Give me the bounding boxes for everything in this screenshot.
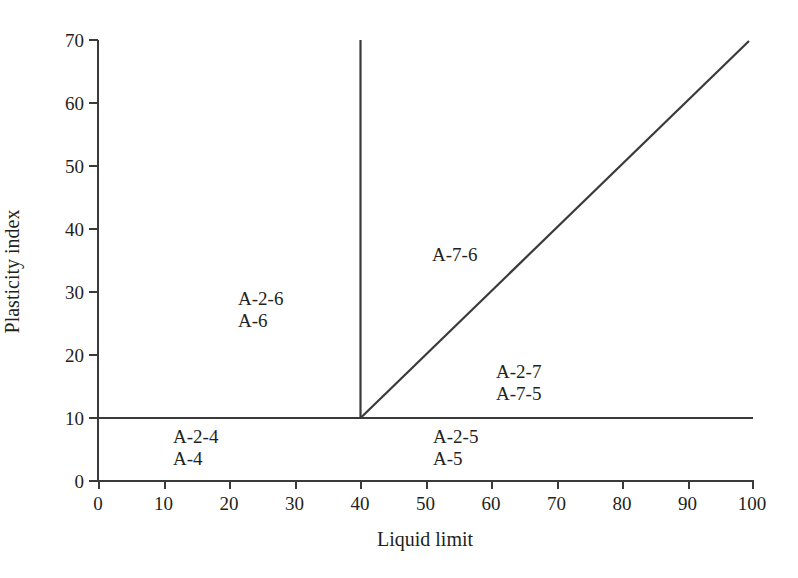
x-tick-label-80: 80 xyxy=(613,494,632,513)
y-tick-label-10: 10 xyxy=(65,409,84,428)
x-tick-label-30: 30 xyxy=(285,494,304,513)
plot-lines xyxy=(0,0,798,578)
y-tick-label-30: 30 xyxy=(65,283,84,302)
x-tick-label-40: 40 xyxy=(351,494,370,513)
x-tick-30 xyxy=(295,480,297,489)
y-tick-label-60: 60 xyxy=(65,94,84,113)
region-label-line-2: A-4 xyxy=(173,448,218,470)
y-axis-title: Plasticity index xyxy=(1,210,24,334)
region-label-a-2-4-a-4: A-2-4 A-4 xyxy=(173,426,218,470)
region-label-line-1: A-2-4 xyxy=(173,426,218,448)
x-tick-90 xyxy=(688,480,690,489)
x-tick-100 xyxy=(752,480,754,489)
region-label-line-1: A-2-7 xyxy=(496,361,541,383)
region-label-line-1: A-7-6 xyxy=(432,244,477,266)
region-label-a-2-5-a-5: A-2-5 A-5 xyxy=(433,426,478,470)
y-tick-20 xyxy=(89,354,98,356)
x-tick-label-50: 50 xyxy=(416,494,435,513)
region-label-line-2: A-7-5 xyxy=(496,383,541,405)
y-tick-10 xyxy=(89,417,98,419)
y-tick-60 xyxy=(89,102,98,104)
y-tick-50 xyxy=(89,165,98,167)
y-tick-label-20: 20 xyxy=(65,346,84,365)
x-tick-label-70: 70 xyxy=(547,494,566,513)
region-label-a-7-6: A-7-6 xyxy=(432,244,477,266)
x-tick-label-60: 60 xyxy=(482,494,501,513)
region-label-line-1: A-2-6 xyxy=(238,288,283,310)
x-tick-label-10: 10 xyxy=(154,494,173,513)
region-label-a-2-7-a-7-5: A-2-7 A-7-5 xyxy=(496,361,541,405)
y-tick-label-50: 50 xyxy=(65,157,84,176)
region-label-line-1: A-2-5 xyxy=(433,426,478,448)
x-tick-label-20: 20 xyxy=(220,494,239,513)
y-tick-30 xyxy=(89,291,98,293)
x-tick-label-100: 100 xyxy=(738,494,767,513)
aashto-plasticity-chart: 0 10 20 30 40 50 60 70 80 90 100 0 10 20… xyxy=(0,0,798,578)
x-tick-60 xyxy=(491,480,493,489)
y-tick-70 xyxy=(89,39,98,41)
x-tick-50 xyxy=(426,480,428,489)
line-diagonal-pi-eq-ll-minus-30 xyxy=(361,41,750,418)
y-tick-40 xyxy=(89,228,98,230)
x-tick-70 xyxy=(557,480,559,489)
x-tick-label-90: 90 xyxy=(678,494,697,513)
x-tick-20 xyxy=(229,480,231,489)
y-tick-label-70: 70 xyxy=(65,31,84,50)
y-tick-label-40: 40 xyxy=(65,220,84,239)
y-tick-0 xyxy=(89,480,98,482)
x-axis-title: Liquid limit xyxy=(377,528,473,551)
x-tick-10 xyxy=(164,480,166,489)
x-tick-40 xyxy=(360,480,362,489)
x-tick-0 xyxy=(98,480,100,489)
x-tick-label-0: 0 xyxy=(93,494,103,513)
y-tick-label-0: 0 xyxy=(75,472,85,491)
region-label-line-2: A-6 xyxy=(238,310,283,332)
region-label-line-2: A-5 xyxy=(433,448,478,470)
y-axis xyxy=(97,40,99,481)
region-label-a-2-6-a-6: A-2-6 A-6 xyxy=(238,288,283,332)
x-tick-80 xyxy=(622,480,624,489)
